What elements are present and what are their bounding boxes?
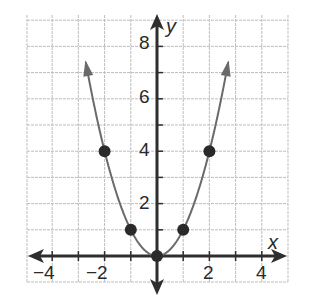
data-point	[203, 145, 215, 157]
y-tick-label-6: 6	[139, 87, 150, 106]
y-tick-label-8: 8	[139, 33, 150, 52]
data-point	[177, 224, 189, 236]
x-tick-label-2: 2	[203, 263, 214, 282]
y-tick-label-4: 4	[139, 140, 150, 159]
data-point	[125, 224, 137, 236]
x-tick-label-neg2: −2	[86, 263, 108, 282]
data-point	[99, 145, 111, 157]
x-tick-label-4: 4	[256, 263, 267, 282]
x-axis-label: x	[268, 232, 278, 252]
x-tick-label-neg4: −4	[33, 263, 55, 282]
y-axis-label: y	[166, 16, 176, 36]
data-point	[151, 250, 163, 262]
y-tick-label-2: 2	[139, 193, 150, 212]
